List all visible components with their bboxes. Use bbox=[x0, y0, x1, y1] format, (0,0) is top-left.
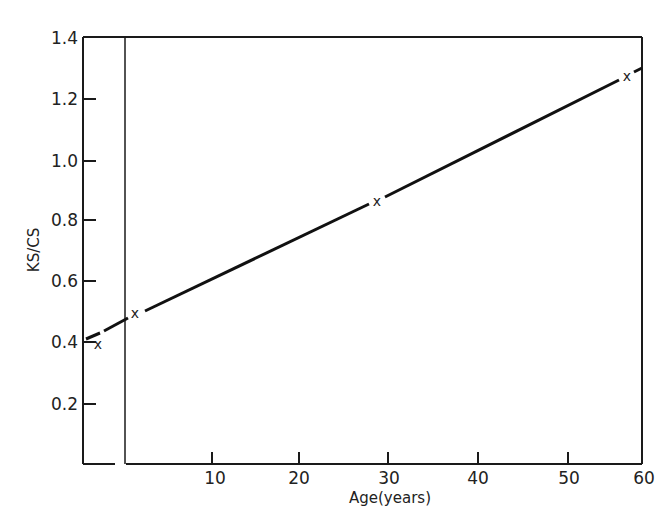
svg-text:0.8: 0.8 bbox=[51, 210, 78, 230]
marker-point: x bbox=[94, 336, 102, 352]
y-ticks bbox=[83, 99, 96, 404]
fit-line bbox=[86, 68, 642, 339]
svg-text:40: 40 bbox=[467, 468, 489, 488]
svg-text:0.2: 0.2 bbox=[51, 394, 78, 414]
marker-point: x bbox=[373, 193, 381, 209]
svg-text:1.0: 1.0 bbox=[51, 151, 78, 171]
x-ticks bbox=[212, 452, 568, 464]
svg-text:1.4: 1.4 bbox=[51, 28, 78, 48]
svg-text:20: 20 bbox=[288, 468, 310, 488]
svg-text:10: 10 bbox=[204, 468, 226, 488]
chart: 1.4 1.2 1.0 0.8 0.6 0.4 0.2 10 20 30 40 … bbox=[0, 0, 671, 528]
x-tick-labels: 10 20 30 40 50 60 bbox=[204, 468, 655, 488]
marker-point: x bbox=[131, 305, 139, 321]
y-tick-labels: 1.4 1.2 1.0 0.8 0.6 0.4 0.2 bbox=[51, 28, 78, 414]
svg-text:50: 50 bbox=[558, 468, 580, 488]
svg-text:0.6: 0.6 bbox=[51, 271, 78, 291]
data-markers: x x x x bbox=[94, 68, 631, 352]
svg-text:0.4: 0.4 bbox=[51, 332, 78, 352]
marker-point: x bbox=[623, 68, 631, 84]
svg-text:1.2: 1.2 bbox=[51, 89, 78, 109]
x-axis-label: Age(years) bbox=[349, 489, 431, 507]
svg-text:60: 60 bbox=[633, 468, 655, 488]
svg-text:30: 30 bbox=[378, 468, 400, 488]
y-axis-label: KS/CS bbox=[25, 228, 43, 272]
